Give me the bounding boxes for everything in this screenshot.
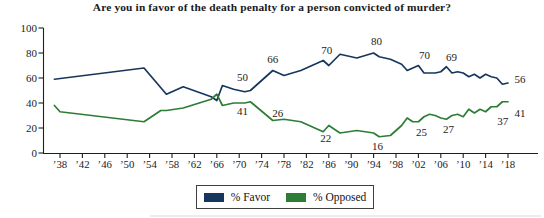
x-tick-label: ’46 [98,158,113,170]
x-tick-label: ’98 [389,158,403,170]
chart-legend: % Favor % Opposed [196,185,374,209]
poll-trend-figure: Are you in favor of the death penalty fo… [0,0,544,218]
x-tick-label: ’86 [322,158,337,170]
x-tick-label: ’06 [434,158,449,170]
opposed-legend-label: % Opposed [313,191,366,203]
opposed-point-label: 16 [372,140,384,152]
opposed-swatch [286,193,306,202]
opposed-point-label: 37 [497,115,509,127]
x-tick-label: ’10 [456,158,470,170]
x-tick-label: ’70 [232,158,246,170]
x-tick-label: ’42 [75,158,89,170]
y-tick-label: 60 [26,72,38,84]
x-tick-label: ’62 [187,158,201,170]
x-tick-label: ’54 [142,158,157,170]
x-tick-label: ’74 [254,158,269,170]
opposed-point-label: 41 [237,105,248,117]
legend-item-opposed: % Opposed [286,191,366,203]
favor-swatch [204,193,224,202]
favor-legend-label: % Favor [231,191,270,203]
x-tick-label: ’94 [366,158,381,170]
opposed-point-label: 41 [515,107,526,119]
favor-point-label: 80 [371,35,383,47]
x-tick-label: ’14 [478,158,493,170]
y-tick-label: 80 [26,47,38,59]
scan-edge-artifact [150,215,541,217]
opposed-point-label: 26 [272,107,284,119]
axes [39,28,539,158]
x-tick-label: ’38 [53,158,67,170]
x-tick-label: ’78 [277,158,291,170]
y-tick-label: 100 [21,22,38,34]
x-tick-label: ’66 [210,158,225,170]
tick-labels: 020406080100’38’42’46’50’54’58’62’66’70’… [21,22,516,170]
opposed-point-label: 27 [443,123,455,135]
y-tick-label: 20 [26,122,38,134]
x-tick-label: ’50 [120,158,134,170]
opposed-point-label: 22 [320,132,331,144]
y-tick-label: 40 [26,97,38,109]
x-tick-label: ’58 [165,158,179,170]
x-tick-label: ’02 [411,158,425,170]
legend-item-favor: % Favor [204,191,270,203]
opposed-point-label: 25 [416,126,428,138]
favor-point-label: 69 [446,51,458,63]
x-tick-label: ’82 [299,158,313,170]
x-tick-label: ’90 [344,158,358,170]
favor-line [54,53,508,101]
favor-point-label: 70 [419,49,431,61]
favor-point-label: 70 [321,44,333,56]
favor-point-label: 66 [267,53,279,65]
x-tick-label: ’18 [501,158,515,170]
favor-point-label: 50 [237,71,249,83]
favor-point-label: 56 [515,73,527,85]
y-tick-label: 0 [32,147,38,159]
